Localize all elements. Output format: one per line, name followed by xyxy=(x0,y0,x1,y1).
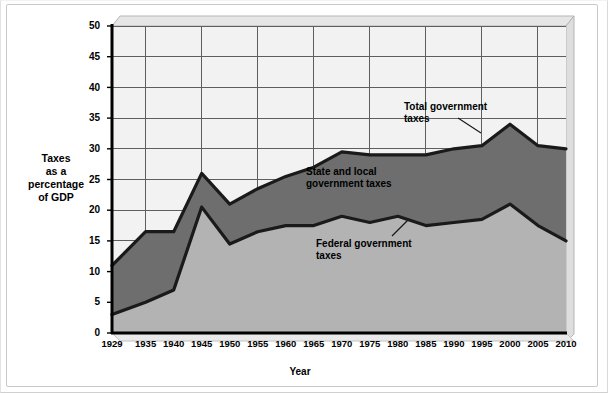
y-tick-label-20: 20 xyxy=(76,205,100,215)
y-axis-title-line-2: as a xyxy=(12,165,100,178)
annotation-state-line-1: State and local xyxy=(306,166,426,178)
y-axis-title-line-4: of GDP xyxy=(12,191,100,204)
annotation-federal-government-taxes: Federal government taxes xyxy=(316,238,436,262)
annotation-state-and-local-government-taxes: State and local government taxes xyxy=(306,166,426,190)
annotation-federal-line-2: taxes xyxy=(316,250,436,262)
y-axis-title-line-3: percentage xyxy=(12,178,100,191)
y-tick-label-15: 15 xyxy=(76,236,100,246)
y-tick-label-50: 50 xyxy=(76,21,100,31)
y-axis-title-line-1: Taxes xyxy=(12,152,100,165)
y-axis-title: Taxes as a percentage of GDP xyxy=(12,152,100,204)
y-tick-label-35: 35 xyxy=(76,113,100,123)
x-tick-label-1929: 1929 xyxy=(94,339,130,349)
y-tick-label-40: 40 xyxy=(76,83,100,93)
plot-3d-right-face xyxy=(566,16,574,342)
annotation-total-government-taxes: Total government taxes xyxy=(404,101,524,125)
y-tick-label-5: 5 xyxy=(76,297,100,307)
y-tick-label-10: 10 xyxy=(76,267,100,277)
annotation-state-line-2: government taxes xyxy=(306,178,426,190)
y-tick-label-45: 45 xyxy=(76,52,100,62)
plot-3d-top-face xyxy=(112,16,574,26)
annotation-federal-line-1: Federal government xyxy=(316,238,436,250)
annotation-total-line-1: Total government xyxy=(404,101,524,113)
y-tick-label-0: 0 xyxy=(76,328,100,338)
x-tick-label-2010: 2010 xyxy=(548,339,584,349)
x-axis-title: Year xyxy=(260,366,340,377)
annotation-total-line-2: taxes xyxy=(404,113,524,125)
